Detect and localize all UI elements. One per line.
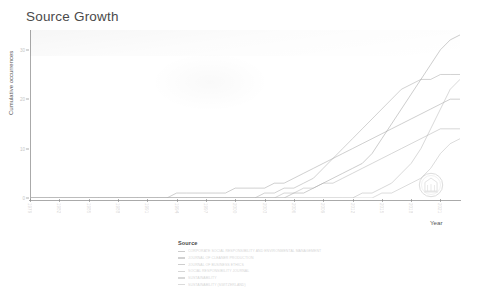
legend-swatch-icon: [178, 264, 185, 265]
x-tick-label: 2018: [408, 203, 413, 213]
legend-item[interactable]: CORPORATE SOCIAL RESPONSIBILITY AND ENVI…: [178, 249, 358, 255]
legend-item-label: SUSTAINABILITY: [188, 276, 217, 280]
x-tick-mark: [235, 199, 236, 202]
x-tick-mark: [294, 199, 295, 202]
x-tick-mark: [118, 199, 119, 202]
legend-item[interactable]: SUSTAINABILITY (SWITZERLAND): [178, 282, 358, 288]
legend-swatch-icon: [178, 284, 185, 285]
series-line: [30, 139, 460, 198]
x-axis-title: Year: [430, 219, 443, 226]
legend-item-label: JOURNAL OF BUSINESS ETHICS: [188, 263, 244, 267]
x-tick-label: 1979: [27, 203, 32, 213]
x-tick-label: 2003: [262, 203, 267, 213]
x-tick-label: 2000: [232, 203, 237, 213]
legend-item[interactable]: JOURNAL OF CLEANER PRODUCTION: [178, 255, 358, 261]
legend-item-label: CORPORATE SOCIAL RESPONSIBILITY AND ENVI…: [188, 249, 321, 253]
series-line: [30, 79, 460, 198]
x-tick-label: 1994: [174, 203, 179, 213]
x-tick-label: 1997: [203, 203, 208, 213]
x-tick-mark: [440, 199, 441, 202]
x-tick-mark: [411, 199, 412, 202]
legend-swatch-icon: [178, 257, 185, 258]
x-tick-mark: [323, 199, 324, 202]
x-tick-mark: [382, 199, 383, 202]
x-tick-mark: [30, 199, 31, 202]
legend: Source CORPORATE SOCIAL RESPONSIBILITY A…: [178, 240, 358, 289]
x-tick-label: 1988: [115, 203, 120, 213]
x-tick-label: 1985: [86, 203, 91, 213]
legend-title: Source: [178, 240, 358, 246]
legend-swatch-icon: [178, 251, 185, 252]
x-tick-label: 2021: [437, 203, 442, 213]
chart-page: Source Growth 0102030 197919821985198819…: [0, 0, 484, 297]
legend-item[interactable]: JOURNAL OF BUSINESS ETHICS: [178, 262, 358, 268]
x-tick-label: 1991: [144, 203, 149, 213]
legend-item[interactable]: SUSTAINABILITY: [178, 275, 358, 281]
legend-item-label: SOCIAL RESPONSIBILITY JOURNAL: [188, 269, 249, 273]
institutional-seal-watermark-icon: [418, 172, 444, 198]
series-lines-svg: [30, 30, 460, 198]
x-tick-mark: [206, 199, 207, 202]
legend-item[interactable]: SOCIAL RESPONSIBILITY JOURNAL: [178, 269, 358, 275]
series-line: [30, 129, 460, 198]
x-tick-mark: [177, 199, 178, 202]
legend-swatch-icon: [178, 277, 185, 278]
plot-area: [30, 30, 460, 198]
x-tick-label: 2009: [320, 203, 325, 213]
x-tick-label: 1982: [56, 203, 61, 213]
legend-swatch-icon: [178, 271, 185, 272]
legend-item-label: JOURNAL OF CLEANER PRODUCTION: [188, 256, 254, 260]
legend-items: CORPORATE SOCIAL RESPONSIBILITY AND ENVI…: [178, 249, 358, 288]
x-tick-mark: [89, 199, 90, 202]
x-tick-label: 2006: [291, 203, 296, 213]
x-tick-mark: [265, 199, 266, 202]
x-tick-mark: [147, 199, 148, 202]
x-tick-label: 2015: [379, 203, 384, 213]
series-line: [30, 35, 460, 198]
series-line: [30, 99, 460, 198]
x-tick-mark: [353, 199, 354, 202]
x-tick-mark: [59, 199, 60, 202]
legend-item-label: SUSTAINABILITY (SWITZERLAND): [188, 283, 246, 287]
x-tick-label: 2012: [350, 203, 355, 213]
y-axis-title: Cumulative occurrences: [8, 51, 14, 115]
